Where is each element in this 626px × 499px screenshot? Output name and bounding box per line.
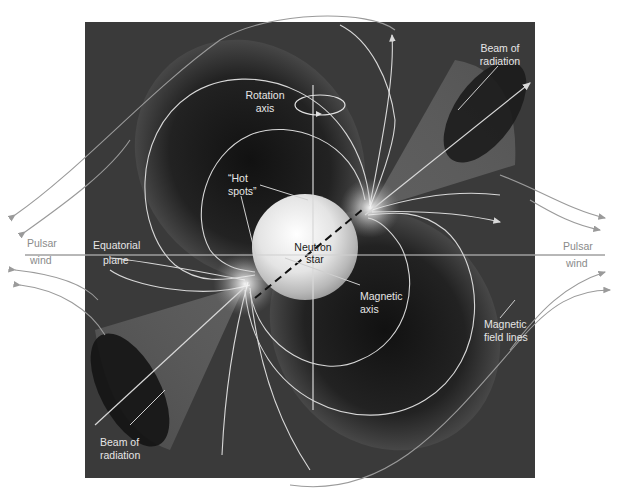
label-beam-bottom: Beam ofradiation <box>100 436 140 461</box>
label-pulsar-wind-left: Pulsarwind <box>27 237 57 266</box>
label-beam-top: Beam ofradiation <box>480 42 520 67</box>
label-magnetic-field-lines: Magneticfield lines <box>484 318 528 343</box>
pulsar-diagram: Rotationaxis Beam ofradiation “Hotspots”… <box>0 0 626 499</box>
